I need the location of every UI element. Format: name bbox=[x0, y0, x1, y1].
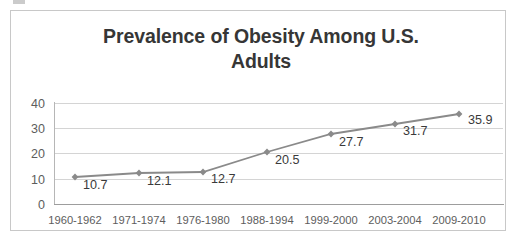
x-axis-tick-label-5: 1999-2000 bbox=[294, 214, 368, 226]
y-axis-tick-label-10: 10 bbox=[15, 174, 45, 186]
data-label-1: 10.7 bbox=[83, 179, 108, 191]
x-axis-tick-label-7: 2009-2010 bbox=[422, 214, 496, 226]
x-axis-tick-label-6: 2003-2004 bbox=[358, 214, 432, 226]
x-axis-tick-label-4: 1988-1994 bbox=[230, 214, 304, 226]
series-polyline bbox=[75, 114, 459, 177]
x-axis-line bbox=[54, 204, 504, 205]
data-point-marker-2 bbox=[136, 170, 143, 177]
data-label-4: 20.5 bbox=[275, 154, 300, 166]
data-point-marker-4 bbox=[264, 149, 271, 156]
x-axis-tick-label-3: 1976-1980 bbox=[166, 214, 240, 226]
y-axis-tick-label-20: 20 bbox=[15, 148, 45, 160]
chart-frame: Prevalence of Obesity Among U.S. Adults … bbox=[10, 10, 506, 231]
scan-artifact bbox=[13, 0, 25, 4]
data-label-2: 12.1 bbox=[147, 175, 172, 187]
y-axis-tick-label-0: 0 bbox=[15, 199, 45, 211]
y-axis-tick-label-30: 30 bbox=[15, 123, 45, 135]
chart-title-line-1: Prevalence of Obesity Among U.S. bbox=[103, 25, 419, 47]
y-axis-tick-label-40: 40 bbox=[15, 98, 45, 110]
x-axis-tick-label-2: 1971-1974 bbox=[102, 214, 176, 226]
data-point-marker-3 bbox=[200, 169, 207, 176]
x-axis-tick-label-1: 1960-1962 bbox=[38, 214, 112, 226]
data-point-marker-6 bbox=[392, 121, 399, 128]
data-label-6: 31.7 bbox=[403, 125, 428, 137]
data-point-marker-5 bbox=[328, 131, 335, 138]
data-label-7: 35.9 bbox=[468, 114, 493, 126]
series-markers bbox=[72, 111, 463, 181]
chart-title: Prevalence of Obesity Among U.S. Adults bbox=[51, 24, 471, 74]
data-label-5: 27.7 bbox=[339, 136, 364, 148]
data-point-marker-7 bbox=[456, 111, 463, 118]
chart-screenshot: Prevalence of Obesity Among U.S. Adults … bbox=[0, 0, 513, 238]
chart-title-line-2: Adults bbox=[51, 49, 471, 74]
data-point-marker-1 bbox=[72, 174, 79, 181]
data-label-3: 12.7 bbox=[211, 173, 236, 185]
